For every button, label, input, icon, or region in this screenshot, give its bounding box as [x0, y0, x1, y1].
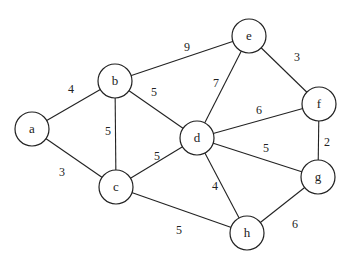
- node-b: b: [98, 64, 132, 98]
- node-label-h: h: [244, 225, 251, 240]
- edge-weight-c-h: 5: [176, 223, 182, 237]
- edge-weight-b-c: 5: [105, 124, 111, 138]
- graph-svg: 43559557654326 abcdefgh: [0, 0, 350, 264]
- node-g: g: [301, 160, 335, 194]
- edge-weight-d-h: 4: [212, 179, 218, 193]
- edge-weight-b-d: 5: [151, 85, 157, 99]
- edge-weight-a-c: 3: [59, 165, 65, 179]
- edge-weight-f-g: 2: [324, 135, 330, 149]
- graph-diagram: 43559557654326 abcdefgh: [0, 0, 350, 264]
- node-e: e: [232, 19, 266, 53]
- edge-weight-a-b: 4: [68, 82, 74, 96]
- node-d: d: [180, 121, 214, 155]
- edge-weight-g-h: 6: [292, 217, 298, 231]
- edge-weight-d-e: 7: [213, 76, 219, 90]
- node-c: c: [99, 170, 133, 204]
- edge-weight-d-g: 5: [263, 141, 269, 155]
- node-label-f: f: [317, 96, 322, 111]
- edge-weight-e-f: 3: [294, 50, 300, 64]
- edge-weight-b-e: 9: [184, 40, 190, 54]
- node-label-d: d: [194, 130, 201, 145]
- node-label-a: a: [29, 121, 35, 136]
- edges-layer: [32, 36, 319, 233]
- node-label-c: c: [113, 179, 119, 194]
- node-label-g: g: [315, 169, 322, 184]
- edge-weight-d-f: 6: [256, 103, 262, 117]
- edge-weight-c-d: 5: [154, 149, 160, 163]
- node-h: h: [230, 216, 264, 250]
- node-label-e: e: [246, 28, 252, 43]
- nodes-layer: abcdefgh: [15, 19, 336, 250]
- node-label-b: b: [112, 73, 119, 88]
- node-a: a: [15, 112, 49, 146]
- node-f: f: [302, 87, 336, 121]
- edge-d-g: [197, 138, 318, 177]
